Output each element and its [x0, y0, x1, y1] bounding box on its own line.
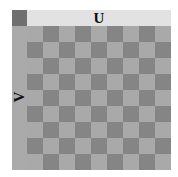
checker-cell [107, 74, 123, 90]
checker-cell [27, 122, 43, 138]
checker-cell [91, 58, 107, 74]
checker-cell [107, 106, 123, 122]
checker-cell [27, 154, 43, 170]
checker-cell [139, 42, 155, 58]
checker-cell [123, 138, 139, 154]
checker-cell [155, 42, 171, 58]
checker-cell [155, 26, 171, 42]
checker-cell [123, 74, 139, 90]
checker-cell [43, 90, 59, 106]
u-axis-label: U [27, 10, 171, 26]
checker-cell [59, 138, 75, 154]
checker-cell [155, 154, 171, 170]
checker-cell [75, 154, 91, 170]
checker-cell [107, 154, 123, 170]
checker-cell [27, 90, 43, 106]
checker-cell [107, 42, 123, 58]
checker-cell [123, 58, 139, 74]
checker-cell [75, 122, 91, 138]
checker-cell [139, 122, 155, 138]
corner-swatch [12, 10, 27, 26]
checker-cell [139, 138, 155, 154]
checker-cell [91, 74, 107, 90]
checker-cell [91, 106, 107, 122]
checker-cell [91, 90, 107, 106]
checker-cell [75, 74, 91, 90]
checker-cell [59, 42, 75, 58]
uv-checker-figure: U V [12, 10, 171, 170]
checker-cell [139, 90, 155, 106]
checker-cell [75, 42, 91, 58]
u-axis-bar: U [27, 10, 171, 26]
checker-cell [123, 90, 139, 106]
checker-cell [123, 154, 139, 170]
checker-cell [27, 138, 43, 154]
checker-cell [139, 154, 155, 170]
checker-cell [27, 26, 43, 42]
checker-cell [27, 74, 43, 90]
checker-cell [139, 106, 155, 122]
checker-cell [59, 74, 75, 90]
checker-cell [123, 42, 139, 58]
checker-cell [27, 58, 43, 74]
checker-cell [139, 74, 155, 90]
checker-cell [43, 122, 59, 138]
checkerboard-grid [27, 26, 171, 170]
checker-cell [107, 26, 123, 42]
checker-cell [107, 90, 123, 106]
checker-cell [43, 42, 59, 58]
checker-cell [43, 58, 59, 74]
checker-cell [43, 74, 59, 90]
v-axis-bar: V [12, 26, 27, 170]
checker-cell [75, 26, 91, 42]
checker-cell [91, 122, 107, 138]
checker-cell [155, 74, 171, 90]
checker-cell [107, 122, 123, 138]
checker-cell [155, 58, 171, 74]
checker-cell [123, 26, 139, 42]
checker-cell [59, 106, 75, 122]
checker-cell [75, 90, 91, 106]
checker-cell [75, 138, 91, 154]
checker-cell [123, 122, 139, 138]
checker-cell [155, 138, 171, 154]
checker-cell [155, 106, 171, 122]
checker-cell [43, 154, 59, 170]
checker-cell [91, 26, 107, 42]
checker-cell [43, 138, 59, 154]
checker-cell [27, 42, 43, 58]
checker-cell [155, 122, 171, 138]
checker-cell [91, 154, 107, 170]
checker-cell [59, 26, 75, 42]
checker-cell [43, 26, 59, 42]
checker-cell [139, 26, 155, 42]
checker-cell [91, 138, 107, 154]
checker-cell [139, 58, 155, 74]
checker-cell [107, 58, 123, 74]
checker-cell [75, 106, 91, 122]
checker-cell [27, 106, 43, 122]
checker-cell [91, 42, 107, 58]
checker-cell [43, 106, 59, 122]
checker-cell [123, 106, 139, 122]
checker-cell [107, 138, 123, 154]
checker-cell [59, 58, 75, 74]
checker-cell [75, 58, 91, 74]
checker-cell [59, 154, 75, 170]
checker-cell [59, 122, 75, 138]
checker-cell [59, 90, 75, 106]
v-axis-label: V [11, 89, 27, 105]
checker-cell [155, 90, 171, 106]
